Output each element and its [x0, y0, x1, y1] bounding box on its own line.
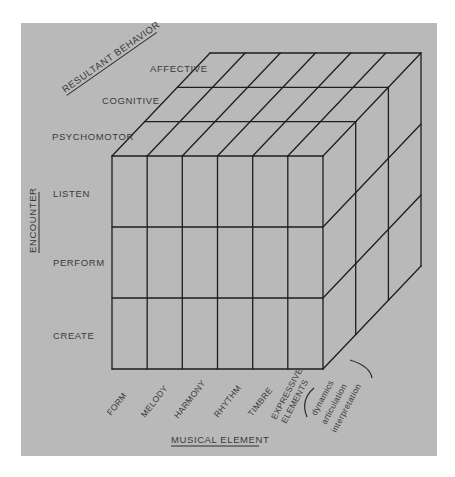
level-affective: AFFECTIVE — [150, 63, 208, 74]
level-listen: LISTEN — [53, 188, 90, 199]
level-perform: PERFORM — [53, 257, 105, 268]
musical-element-title: MUSICAL ELEMENT — [171, 434, 269, 445]
cube-diagram: RESULTANT BEHAVIOR AFFECTIVE COGNITIVE P… — [0, 0, 455, 477]
encounter-title: ENCOUNTER — [27, 187, 38, 253]
level-psychomotor: PSYCHOMOTOR — [52, 131, 134, 142]
level-cognitive: COGNITIVE — [102, 95, 160, 106]
level-create: CREATE — [53, 330, 94, 341]
